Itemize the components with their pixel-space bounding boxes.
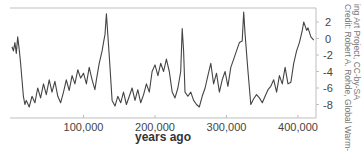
y-tick-label: -4 (323, 66, 333, 78)
x-axis-label: years ago (135, 130, 191, 144)
y-tick-label: -8 (323, 99, 333, 111)
credit-line-2: ing Art Project, CC-by-SA (352, 4, 361, 100)
temperature-chart: 100,000200,000300,000400,000 20-2-4-6-8 … (0, 0, 361, 156)
y-tick-label: -2 (323, 49, 333, 61)
x-tick-label: 100,000 (64, 121, 104, 133)
y-tick-label: 2 (325, 16, 331, 28)
x-tick-label: 400,000 (278, 121, 318, 133)
credit-line-1: Credit: Robert A. Rohde, Global Warm- (343, 4, 353, 151)
x-tick-label: 300,000 (207, 121, 247, 133)
y-tick-label: -6 (323, 82, 333, 94)
y-tick-label: 0 (325, 33, 331, 45)
